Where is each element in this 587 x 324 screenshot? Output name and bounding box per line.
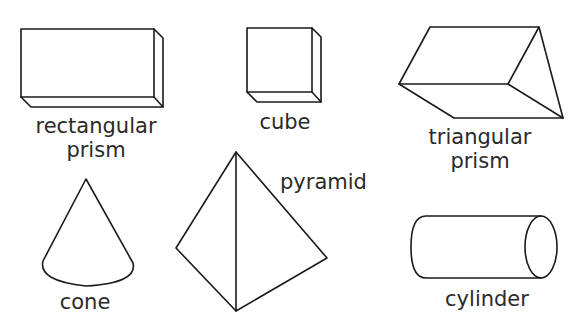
pyramid: pyramid <box>176 152 367 311</box>
rectangular-prism-label-line1: rectangular <box>35 114 156 138</box>
triangular-prism-top-face <box>399 27 539 84</box>
cube-corner-edge <box>312 92 321 102</box>
rectangular-prism-label-line2: prism <box>66 138 125 162</box>
cone-outline <box>43 179 134 286</box>
cylinder-body <box>411 216 541 278</box>
rectangular-prism-corner-edge <box>154 97 163 107</box>
cube-label: cube <box>259 110 310 134</box>
triangular-prism-label-line1: triangular <box>429 125 532 149</box>
cylinder: cylinder <box>411 216 557 311</box>
rectangular-prism-front-face <box>21 29 154 97</box>
triangular-prism-label-line2: prism <box>450 149 509 173</box>
pyramid-label: pyramid <box>280 170 367 194</box>
triangular-prism: triangular prism <box>399 27 563 173</box>
rectangular-prism: rectangular prism <box>21 29 163 162</box>
cube-depth-edges <box>247 28 321 102</box>
cone: cone <box>43 179 134 314</box>
cone-label: cone <box>60 290 111 314</box>
rectangular-prism-depth-edges <box>21 29 163 107</box>
cylinder-label: cylinder <box>445 287 529 311</box>
cube: cube <box>247 28 321 134</box>
shapes-diagram: rectangular prism cube triangular prism … <box>0 0 587 324</box>
cylinder-end-ellipse <box>525 216 557 278</box>
triangular-prism-outline <box>399 27 563 118</box>
cube-front-face <box>247 28 312 92</box>
